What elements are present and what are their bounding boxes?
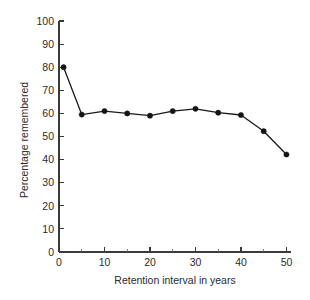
y-tick-label: 80	[42, 61, 54, 73]
y-tick-label: 20	[42, 200, 54, 212]
y-tick-label: 100	[36, 15, 54, 27]
line-chart-canvas: 0 10 20 30 40 50 60 70 80 90 100	[0, 0, 310, 300]
chart-figure: 0 10 20 30 40 50 60 70 80 90 100	[0, 0, 310, 300]
data-point	[261, 129, 266, 134]
y-tick-label: 90	[42, 38, 54, 50]
data-point	[284, 152, 289, 157]
y-tick-label: 30	[42, 176, 54, 188]
x-tick-label: 10	[99, 256, 111, 268]
y-tick-label: 10	[42, 223, 54, 235]
data-point	[102, 108, 107, 113]
x-tick-label: 20	[144, 256, 156, 268]
data-point	[125, 111, 130, 116]
y-tick-label: 60	[42, 107, 54, 119]
data-point	[238, 112, 243, 117]
x-tick-label: 50	[281, 256, 293, 268]
x-tick-label: 0	[56, 256, 62, 268]
y-tick-label: 0	[48, 246, 54, 258]
data-point	[170, 108, 175, 113]
x-axis-title: Retention interval in years	[114, 274, 235, 286]
y-tick-label: 70	[42, 84, 54, 96]
data-point	[61, 65, 66, 70]
data-point	[79, 112, 84, 117]
y-axis-title: Percentage remembered	[18, 82, 30, 198]
data-point	[147, 113, 152, 118]
x-tick-label: 30	[190, 256, 202, 268]
x-tick-label: 40	[235, 256, 247, 268]
data-point	[216, 110, 221, 115]
y-tick-label: 50	[42, 130, 54, 142]
data-point	[193, 106, 198, 111]
y-tick-label: 40	[42, 153, 54, 165]
